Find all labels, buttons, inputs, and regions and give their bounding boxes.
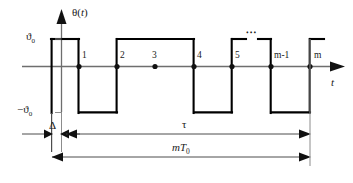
dimension-label-mt0: mT0 [172,142,190,156]
ellipsis-label: ∙∙∙ [246,27,257,38]
mt0-arrowhead-right [299,153,311,162]
dimension-label-tau: τ [182,119,186,130]
dimension-tau-group [66,130,311,139]
mt0-arrowhead-left [52,153,63,162]
tick-label-4: 4 [197,51,202,61]
tick-label-2: 2 [120,51,125,61]
tick-dot-2 [114,64,119,69]
tick-dot-1 [76,64,81,69]
tick-label-5: 5 [235,51,240,61]
tick-dot-3 [152,64,157,69]
tick-dot-4 [191,64,196,69]
axes-group [22,9,345,112]
tick-dot-5 [229,64,234,69]
tick-label-m: m [314,51,321,61]
theta-axis-arrowhead [57,9,67,24]
t-axis-arrowhead [330,62,345,72]
tick-label-1: 1 [82,51,87,61]
dimension-label-delta: Δ [49,120,56,131]
tick-dot-m-1 [268,64,273,69]
amplitude-guides-group [55,39,62,113]
t-axis-label: t [331,77,334,88]
amplitude-positive-label: ϑ0 [26,31,35,45]
tick-label-m-minus-1: m-1 [274,51,289,61]
square-wave-figure: θ(t) t ϑ0 −ϑ0 1 2 3 4 5 m-1 m ∙∙∙ Δ τ mT… [0,0,353,183]
tau-arrowhead-right [299,130,311,139]
amplitude-negative-label: −ϑ0 [17,104,32,118]
tick-label-3: 3 [152,51,157,61]
theta-axis-label: θ(t) [72,7,88,18]
